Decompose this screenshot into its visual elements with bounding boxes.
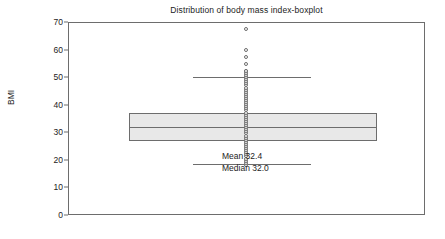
y-tick-label-70: 70	[54, 17, 63, 27]
outlier-point-1	[244, 48, 248, 52]
median-line	[129, 127, 377, 128]
y-tick-label-20: 20	[54, 155, 63, 165]
y-axis-tick-labels: 706050403020100	[30, 22, 63, 215]
data-point-45	[244, 69, 248, 73]
annotation-median: Median 32.0	[222, 162, 269, 174]
y-tick-label-30: 30	[54, 127, 63, 137]
y-tick-label-60: 60	[54, 45, 63, 55]
boxplot-figure: Distribution of body mass index-boxplot …	[0, 0, 445, 239]
statistics-annotation: Mean 32.4 Median 32.0	[222, 150, 269, 174]
whisker-upper-line	[193, 77, 311, 78]
plot-area	[68, 22, 425, 215]
outlier-point-2	[244, 55, 248, 59]
annotation-mean: Mean 32.4	[222, 150, 269, 162]
y-tick-label-0: 0	[58, 210, 63, 220]
y-tick-label-10: 10	[54, 182, 63, 192]
chart-title: Distribution of body mass index-boxplot	[68, 5, 425, 15]
y-tick-label-40: 40	[54, 100, 63, 110]
outlier-point-0	[244, 27, 248, 31]
y-tick-label-50: 50	[54, 72, 63, 82]
y-axis-title: BMI	[6, 90, 16, 105]
outlier-point-3	[244, 62, 248, 66]
